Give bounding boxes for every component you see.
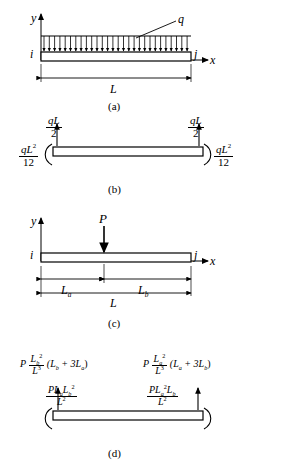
panel-d-left-moment-num-exp: 2 <box>71 383 74 390</box>
panel-b-left-moment-exponent: 2 <box>33 142 36 149</box>
panel-b-left-moment-label: qL2 12 <box>19 144 38 168</box>
panel-a-y-axis-label: y <box>31 12 36 24</box>
panel-c-caption: (c) <box>108 318 120 329</box>
panel-d-caption: (d) <box>108 448 121 459</box>
panel-c-dim-b-sub: b <box>145 290 149 299</box>
panel-c-dim-b-main: L <box>138 283 145 297</box>
panel-d-right-moment-num-sub2: b <box>172 390 175 397</box>
panel-d-right-moment-num-prefix: PL <box>149 384 161 395</box>
panel-d-left-force-num-exp: 2 <box>39 352 42 359</box>
panel-d-right-force-paren-mid: + 3L <box>182 358 204 369</box>
panel-d-right-force-num-exp: 2 <box>162 352 165 359</box>
panel-d-right-moment-den-exp: 2 <box>163 394 166 401</box>
panel-a-caption: (a) <box>108 101 120 112</box>
panel-a-node-i-label: i <box>30 48 33 60</box>
panel-d-right-force-paren-end: ) <box>207 358 210 369</box>
panel-d-left-force-paren-end: ) <box>84 358 87 369</box>
panel-a-x-axis-label: x <box>210 54 215 66</box>
panel-d-left-force-prefix: P <box>20 358 26 369</box>
panel-c-dim-a-sub: a <box>68 290 72 299</box>
panel-b-left-force-label: qL 2 <box>46 115 62 139</box>
panel-d-left-moment-den-exp: 2 <box>62 394 65 401</box>
panel-a-load-label: q <box>178 13 184 25</box>
panel-b-right-moment-label: qL2 12 <box>214 144 233 168</box>
panel-d-left-moment-num-sub2: b <box>68 390 71 397</box>
panel-d-right-force-prefix: P <box>143 358 149 369</box>
panel-b-right-moment-numerator: qL <box>216 143 228 155</box>
panel-c-dim-a-label: La <box>61 284 71 296</box>
panel-c-dim-a-main: L <box>61 283 68 297</box>
panel-c-node-j-label: j <box>194 249 197 261</box>
panel-d-left-force-label: P Lb2 L3 (Lb + 3La) <box>20 354 88 376</box>
panel-b-right-force-denominator: 2 <box>188 128 204 140</box>
panel-b-left-force-denominator: 2 <box>46 128 62 140</box>
panel-a-node-j-label: j <box>194 48 197 60</box>
panel-c-node-i-label: i <box>30 249 33 261</box>
panel-c-dim-b-label: Lb <box>138 284 148 296</box>
panel-c-span-label: L <box>110 297 117 309</box>
panel-d-left-force-den-exp: 3 <box>38 363 41 370</box>
panel-b-right-moment-exponent: 2 <box>228 142 231 149</box>
beam-fixed-end-forces-figure <box>0 0 281 474</box>
panel-b-caption: (b) <box>108 184 121 195</box>
panel-d-left-force-paren-mid: + 3L <box>59 358 81 369</box>
panel-b-right-force-label: qL 2 <box>188 115 204 139</box>
panel-d-right-force-paren: (L <box>170 358 179 369</box>
panel-b-right-force-numerator: qL <box>188 115 204 128</box>
panel-c-y-axis-label: y <box>31 215 36 227</box>
panel-b-diagram <box>45 124 211 165</box>
panel-d-left-moment-num-prefix: PL <box>48 384 60 395</box>
panel-a-span-label: L <box>110 83 117 95</box>
panel-b-left-moment-denominator: 12 <box>19 157 38 169</box>
panel-d-right-force-label: P La2 L3 (La + 3Lb) <box>143 354 211 376</box>
panel-d-right-moment-label: PLa2Lb L2 <box>147 385 178 407</box>
panel-c-load-label: P <box>99 212 107 225</box>
panel-d-left-moment-label: PLaLb2 L2 <box>46 385 77 407</box>
panel-b-left-moment-numerator: qL <box>21 143 33 155</box>
panel-d-left-force-paren: (L <box>47 358 56 369</box>
panel-d-right-force-den-exp: 3 <box>161 363 164 370</box>
panel-b-right-moment-denominator: 12 <box>214 157 233 169</box>
panel-c-x-axis-label: x <box>210 255 215 267</box>
panel-b-left-force-numerator: qL <box>46 115 62 128</box>
